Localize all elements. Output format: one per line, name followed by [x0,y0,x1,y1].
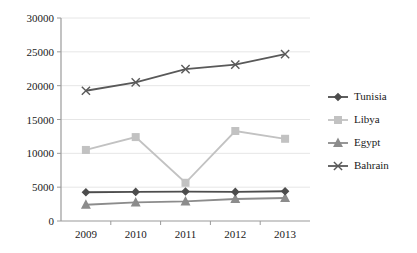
series-egypt [82,194,289,208]
x-axis-ticks: 20092010201120122013 [75,221,297,240]
datapoint-tunisia-2009 [83,189,90,196]
legend-item-libya[interactable]: Libya [328,113,380,125]
y-axis-ticks: 050001000015000200002500030000 [27,12,62,227]
legend-marker-egypt [334,139,342,146]
x-tick-label: 2011 [175,228,197,240]
legend-label-tunisia: Tunisia [354,90,387,102]
datapoint-libya-2011 [182,179,189,186]
legend-marker-tunisia [335,94,342,101]
datapoint-libya-2012 [232,128,239,135]
datapoint-egypt-2009 [82,201,90,208]
y-tick-label: 5000 [32,181,55,193]
x-tick-label: 2013 [274,228,297,240]
line-chart: 0500010000150002000025000300002009201020… [0,0,417,253]
y-tick-label: 0 [49,215,55,227]
y-tick-label: 30000 [27,12,55,24]
gridlines [61,18,310,187]
y-tick-label: 25000 [27,46,55,58]
legend-marker-libya [335,117,342,124]
x-tick-label: 2012 [224,228,246,240]
legend-label-libya: Libya [354,113,380,125]
legend-item-tunisia[interactable]: Tunisia [328,90,387,102]
x-tick-label: 2009 [75,228,98,240]
x-tick-label: 2010 [125,228,148,240]
series-libya [83,128,289,186]
legend-item-bahrain[interactable]: Bahrain [328,159,389,171]
legend-item-egypt[interactable]: Egypt [328,136,380,148]
datapoint-tunisia-2010 [132,189,139,196]
datapoint-tunisia-2012 [232,189,239,196]
legend-label-egypt: Egypt [354,136,380,148]
y-tick-label: 10000 [27,147,55,159]
datapoint-libya-2010 [132,134,139,141]
legend-label-bahrain: Bahrain [354,159,389,171]
chart-canvas: 0500010000150002000025000300002009201020… [0,0,417,253]
datapoint-libya-2013 [282,135,289,142]
datapoint-tunisia-2011 [182,188,189,195]
series-line-libya [86,131,285,183]
datapoint-egypt-2011 [182,197,190,204]
y-tick-label: 15000 [27,114,55,126]
y-tick-label: 20000 [27,80,55,92]
datapoint-egypt-2010 [132,198,140,205]
datapoint-tunisia-2013 [282,188,289,195]
series-bahrain [82,50,289,95]
datapoint-libya-2009 [83,147,90,154]
series-tunisia [83,188,289,196]
legend: TunisiaLibyaEgyptBahrain [328,90,389,171]
